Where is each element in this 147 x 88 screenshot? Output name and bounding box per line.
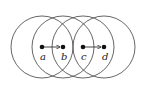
node-dot-b [61,45,66,50]
node-dot-a [40,45,45,50]
circles-diagram: abcd [0,0,147,88]
node-dot-d [102,45,107,50]
node-label-d: d [102,51,108,62]
node-label-b: b [61,51,67,62]
range-circles [11,16,135,78]
node-dot-c [81,45,86,50]
node-label-c: c [81,51,87,62]
node-label-a: a [40,51,46,62]
